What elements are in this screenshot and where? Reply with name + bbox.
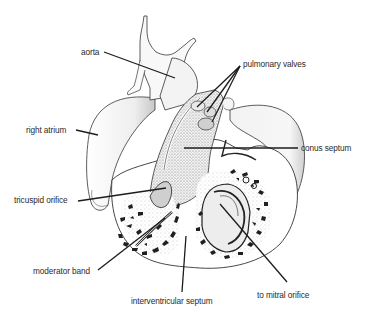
aorta-shape xyxy=(127,16,197,110)
heart-diagram: aorta pulmonary valves right atrium conu… xyxy=(0,0,369,322)
label-aorta: aorta xyxy=(81,47,99,57)
label-conus-septum: conus septum xyxy=(301,143,351,153)
label-tricuspid-orifice: tricuspid orifice xyxy=(14,195,68,205)
label-right-atrium: right atrium xyxy=(26,125,66,135)
label-pulmonary-valves: pulmonary valves xyxy=(243,59,306,69)
label-moderator-band: moderator band xyxy=(33,266,90,276)
label-interventricular-septum: interventricular septum xyxy=(131,296,212,306)
label-to-mitral-orifice: to mitral orifice xyxy=(257,290,309,300)
